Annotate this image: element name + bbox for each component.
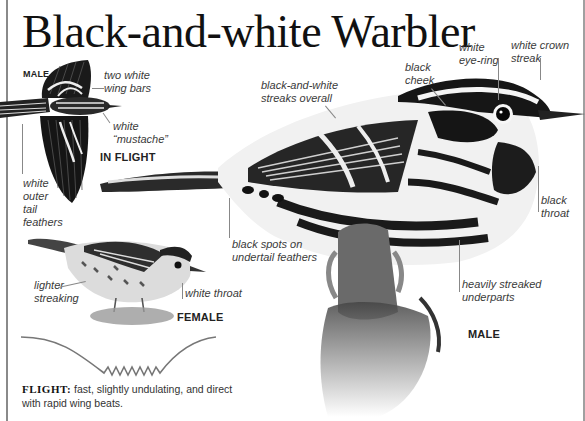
label-white-throat-female: white throat bbox=[185, 287, 242, 300]
inflight-sex-tag: MALE bbox=[23, 69, 49, 79]
label-white-outer-tail-feathers: white outer tail feathers bbox=[23, 177, 63, 229]
label-black-cheek: black cheek bbox=[405, 61, 434, 87]
label-heavily-streaked-underparts: heavily streaked underparts bbox=[462, 278, 542, 304]
label-black-and-white-streaks: black-and-white streaks overall bbox=[261, 79, 338, 105]
leader-line-undertail bbox=[229, 198, 230, 238]
label-white-eye-ring: white eye-ring bbox=[459, 41, 499, 67]
leader-line-eye-ring bbox=[498, 58, 499, 100]
male-sex-tag: MALE bbox=[468, 328, 500, 340]
female-sex-tag: FEMALE bbox=[177, 311, 223, 323]
label-black-spots-undertail: black spots on undertail feathers bbox=[232, 238, 317, 264]
flight-heading: FLIGHT: bbox=[22, 383, 71, 395]
flight-description: FLIGHT: fast, slightly undulating, and d… bbox=[22, 382, 252, 410]
leader-line-underparts bbox=[459, 240, 460, 292]
species-title: Black-and-white Warbler bbox=[22, 6, 475, 58]
leader-line-crown bbox=[540, 58, 541, 80]
label-black-throat: black throat bbox=[541, 194, 569, 220]
leader-line-female-throat bbox=[182, 283, 183, 299]
leader-line-tail bbox=[22, 124, 23, 174]
flight-pattern-diagram bbox=[18, 333, 218, 383]
leader-line-throat bbox=[538, 166, 539, 212]
